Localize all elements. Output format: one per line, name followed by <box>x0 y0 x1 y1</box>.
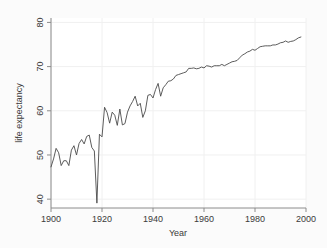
y-tick-label: 50 <box>35 150 45 160</box>
x-tick-label: 1940 <box>143 214 163 224</box>
x-tick-label: 2000 <box>296 214 316 224</box>
chart-figure: 4050607080 190019201940196019802000 Year… <box>0 0 327 248</box>
y-tick-label: 70 <box>35 62 45 72</box>
y-axis-title: life expectancy <box>14 83 24 143</box>
x-tick-label: 1980 <box>245 214 265 224</box>
y-tick-label: 40 <box>35 194 45 204</box>
life-expectancy-line-chart: 4050607080 190019201940196019802000 Year… <box>0 0 327 248</box>
x-tick-label: 1920 <box>92 214 112 224</box>
plot-area-background <box>51 18 306 208</box>
x-axis-title: Year <box>169 228 187 238</box>
x-tick-label: 1960 <box>194 214 214 224</box>
y-tick-label: 80 <box>35 17 45 27</box>
x-tick-label: 1900 <box>41 214 61 224</box>
y-tick-label: 60 <box>35 106 45 116</box>
